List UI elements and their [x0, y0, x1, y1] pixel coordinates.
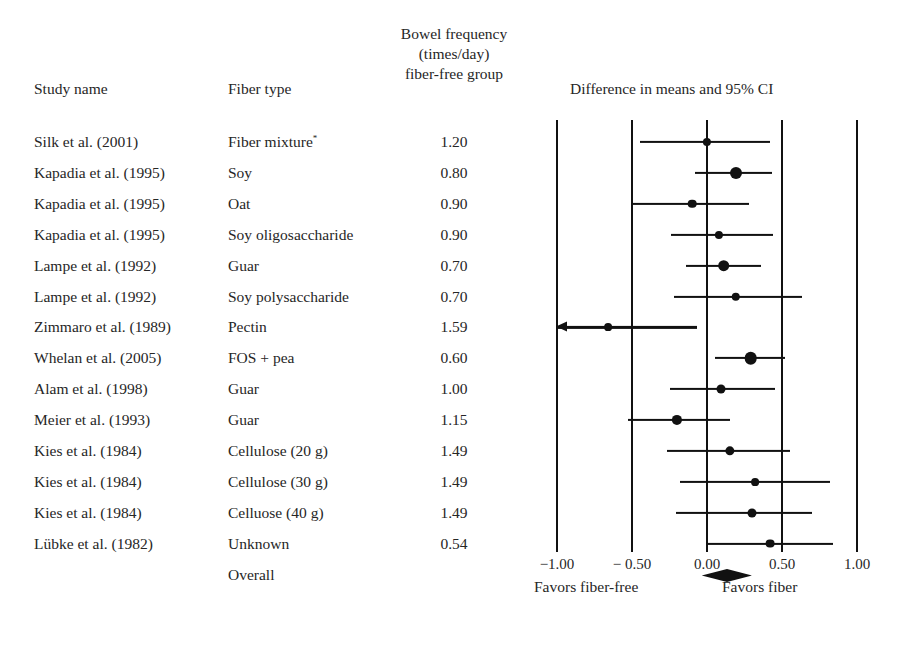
gridline-0_5 — [781, 120, 783, 552]
effect-estimate-marker — [751, 478, 759, 486]
axis-tick-label: 1.00 — [844, 556, 870, 573]
effect-estimate-marker — [688, 200, 697, 209]
effect-estimate-marker — [672, 415, 682, 425]
gridline-0 — [706, 120, 708, 552]
effect-estimate-marker — [703, 138, 711, 146]
effect-estimate-marker — [716, 385, 725, 394]
effect-estimate-marker — [718, 260, 730, 272]
effect-estimate-marker — [748, 508, 757, 517]
axis-tick-label: 0.50 — [769, 556, 795, 573]
confidence-interval-bar — [557, 326, 697, 328]
ci-left-arrowhead-icon — [556, 318, 568, 336]
gridline-1 — [856, 120, 859, 552]
gridline--0_5 — [631, 120, 633, 552]
effect-estimate-marker — [731, 292, 740, 301]
confidence-interval-bar — [676, 512, 813, 514]
forest-plot-figure: Study name Fiber type Bowel frequency (t… — [0, 0, 911, 650]
effect-estimate-marker — [730, 167, 742, 179]
axis-tick-label: −1.00 — [540, 556, 575, 573]
effect-estimate-marker — [715, 231, 723, 239]
effect-estimate-marker — [744, 352, 757, 365]
effect-estimate-marker — [725, 446, 734, 455]
effect-estimate-marker — [766, 539, 775, 548]
axis-note-favors-fiber-free: Favors fiber-free — [534, 578, 638, 596]
forest-plot-canvas: −1.00− 0.500.000.501.00 — [0, 0, 911, 650]
axis-tick-label: 0.00 — [694, 556, 720, 573]
axis-tick-label: − 0.50 — [613, 556, 651, 573]
effect-estimate-marker — [604, 323, 612, 331]
axis-note-favors-fiber: Favors fiber — [722, 578, 797, 596]
